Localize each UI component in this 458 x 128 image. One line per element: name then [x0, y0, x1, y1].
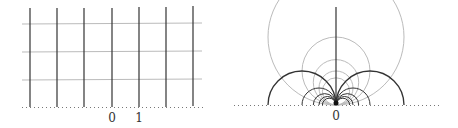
- label-zero-left: 0: [108, 111, 116, 125]
- label-one-left: 1: [135, 111, 143, 125]
- left-panel: [22, 6, 204, 108]
- diagram-canvas: [0, 0, 458, 128]
- label-zero-right: 0: [332, 109, 340, 123]
- right-panel: [234, 0, 440, 106]
- vertical-lines: [30, 6, 193, 107]
- origin-point: [334, 101, 339, 106]
